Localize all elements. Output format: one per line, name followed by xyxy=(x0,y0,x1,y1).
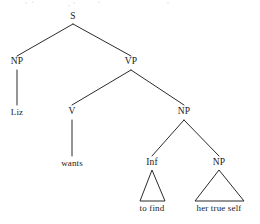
tree-node-liz: Liz xyxy=(11,108,23,117)
branch-s-to-vp xyxy=(73,24,131,56)
branch-np2-to-inf xyxy=(152,120,184,156)
tree-node-hts: her true self xyxy=(197,204,242,213)
tree-node-v: V xyxy=(68,107,75,117)
triangle-np3-to-hts xyxy=(195,170,244,201)
tree-node-s: S xyxy=(70,12,75,22)
tree-node-np2: NP xyxy=(178,107,190,117)
branch-np2-to-np3 xyxy=(184,120,219,156)
branch-s-to-np1 xyxy=(17,24,73,56)
branch-lines xyxy=(17,24,219,156)
tree-node-np1: NP xyxy=(11,57,23,67)
tree-node-tofind: to find xyxy=(140,204,165,213)
triangle-inf-to-tofind xyxy=(140,170,165,201)
tree-node-np3: NP xyxy=(213,158,225,168)
branch-vp-to-v xyxy=(72,70,131,105)
tree-node-vp: VP xyxy=(125,57,137,67)
phrase-triangles xyxy=(140,170,244,201)
syntax-tree-diagram: SNPVPLizVNPwantsInfNPto findher true sel… xyxy=(0,0,260,224)
tree-edges-svg xyxy=(0,0,260,224)
tree-node-wants: wants xyxy=(61,159,83,168)
tree-node-inf: Inf xyxy=(146,158,158,168)
branch-vp-to-np2 xyxy=(131,70,184,105)
